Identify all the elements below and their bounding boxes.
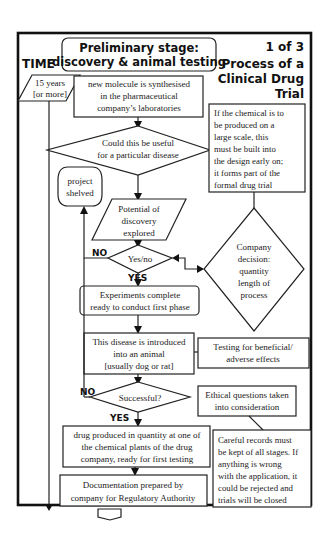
off-page-connector-icon: [98, 509, 121, 520]
careful-records-line6: trials will be closed: [218, 495, 287, 505]
company-decision-line1: Company: [237, 242, 272, 252]
large-scale-note-line4: must be built into: [214, 144, 276, 154]
large-scale-note-line2: be produced on a: [214, 120, 274, 130]
no-label-1: NO: [92, 248, 108, 258]
duration-line2: [or more]: [33, 89, 67, 99]
company-decision-line2: decision:: [238, 254, 271, 264]
time-arrow-head: [45, 504, 53, 511]
careful-records-line4: with the application, it: [218, 471, 298, 481]
potential-line3: explored: [123, 228, 155, 238]
drug-produced-line2: the chemical plants of the drug: [81, 442, 193, 452]
testing-effects-line2: adverse effects: [226, 354, 280, 364]
flowchart-diagram: TIME Preliminary stage: discovery & anim…: [0, 0, 326, 556]
experiments-line1: Experiments complete: [100, 290, 181, 300]
time-label: TIME: [22, 57, 55, 71]
large-scale-note-line6: it forms part of the: [214, 168, 280, 178]
potential-line2: discovery: [122, 216, 157, 226]
project-shelved-line1: project: [68, 176, 93, 186]
stage-title-line2: discovery & animal testing: [52, 55, 226, 69]
company-decision-line3: quantity: [239, 266, 269, 276]
process-title-line3: Trial: [275, 87, 304, 101]
careful-records-line1: Careful records must: [218, 435, 292, 445]
careful-records-line2: be kept of all stages. If: [218, 447, 298, 457]
successful-label: Successful?: [119, 393, 162, 403]
large-scale-note-line1: If the chemical is to: [214, 108, 284, 118]
project-shelved-line2: shelved: [66, 188, 94, 198]
large-scale-note-line3: large scale, this: [214, 132, 269, 142]
page-indicator: 1 of 3: [265, 40, 304, 54]
duration-line1: 15 years: [35, 78, 66, 88]
drug-produced-line1: drug produced in quantity at one of: [74, 430, 201, 440]
connector-ethical-records: [249, 416, 263, 430]
arrow-head-to-yesno: [172, 254, 179, 262]
molecule-line3: company’s laboratories: [97, 103, 181, 113]
useful-question-line1: Could this be useful: [102, 138, 175, 148]
documentation-line2: company for Regulatory Authority: [71, 493, 196, 503]
ethical-line1: Ethical questions taken: [205, 390, 289, 400]
process-title-line1: Process of a: [222, 57, 304, 71]
drug-produced-line3: company, ready for first testing: [81, 454, 194, 464]
large-scale-note-line7: formal drug trial: [214, 180, 273, 190]
useful-question-line2: for a particular disease: [97, 150, 179, 160]
yes-label-2: YES: [109, 413, 129, 423]
large-scale-note-line5: the design early on;: [214, 156, 283, 166]
stage-title-line1: Preliminary stage:: [79, 41, 199, 55]
potential-line1: Potential of: [118, 204, 160, 214]
ethical-line2: into consideration: [215, 402, 280, 412]
no-label-2: NO: [80, 387, 96, 397]
large-scale-note-text: If the chemical is to be produced on a l…: [214, 108, 284, 190]
project-shelved-terminator: [58, 167, 102, 206]
yes-label-1: YES: [127, 273, 147, 283]
company-decision-line4: length of: [238, 278, 270, 288]
testing-effects-line1: Testing for beneficial/: [213, 342, 293, 352]
arrow-head-to-decision: [197, 265, 204, 273]
careful-records-line5: could be rejected and: [218, 483, 294, 493]
experiments-line2: ready to conduct first phase: [90, 302, 189, 312]
yesno-label: Yes/no: [128, 254, 153, 264]
disease-animal-line2: into an animal: [113, 349, 165, 359]
process-title-line2: Clinical Drug: [218, 72, 304, 86]
molecule-line2: in the pharmaceutical: [100, 91, 178, 101]
careful-records-line3: anything is wrong: [218, 459, 282, 469]
disease-animal-line3: [usually dog or rat]: [104, 361, 173, 371]
documentation-line1: Documentation prepared by: [83, 480, 184, 490]
disease-animal-line1: This disease is introduced: [92, 337, 186, 347]
molecule-line1: new molecule is synthesised: [88, 79, 191, 89]
company-decision-line5: process: [241, 290, 268, 300]
